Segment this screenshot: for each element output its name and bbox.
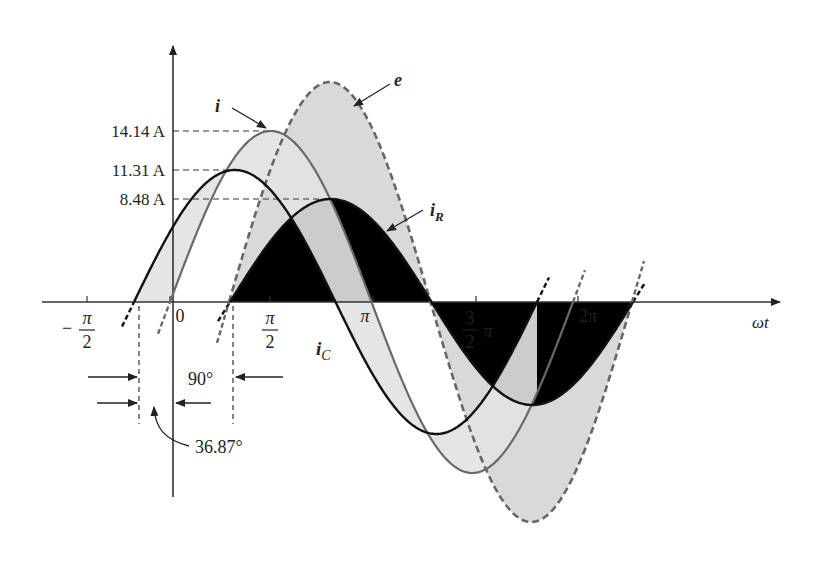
i-label: i <box>215 96 220 116</box>
amplitude-label: 8.48 A <box>120 190 166 209</box>
svg-text:π: π <box>360 306 370 326</box>
x-axis-label: ωt <box>752 313 770 332</box>
svg-text:2: 2 <box>83 332 92 352</box>
amplitude-label: 14.14 A <box>111 122 166 141</box>
waveform-diagram: π2−0π2π32π2π i e iR iC ωt 90° 36.87° 14.… <box>0 0 827 562</box>
svg-text:0: 0 <box>176 306 185 326</box>
amplitude-label: 11.31 A <box>112 161 166 180</box>
e-pointer-arrow <box>354 84 390 106</box>
svg-text:π: π <box>265 308 275 328</box>
svg-text:2: 2 <box>466 332 475 352</box>
phase-angle-label: 36.87° <box>195 437 243 457</box>
amplitude-labels: 14.14 A11.31 A8.48 A <box>111 122 166 209</box>
svg-text:π: π <box>483 321 493 341</box>
svg-text:−: − <box>62 318 72 338</box>
svg-text:3: 3 <box>466 308 475 328</box>
svg-text:2: 2 <box>266 332 275 352</box>
svg-text:π: π <box>82 308 92 328</box>
ninety-degree-label: 90° <box>188 369 213 389</box>
e-label: e <box>394 70 402 90</box>
phase-markers <box>88 306 283 446</box>
iC-label: iC <box>316 338 331 363</box>
i-pointer-arrow <box>232 108 266 128</box>
svg-text:2π: 2π <box>579 306 597 326</box>
iR-label: iR <box>430 200 444 224</box>
